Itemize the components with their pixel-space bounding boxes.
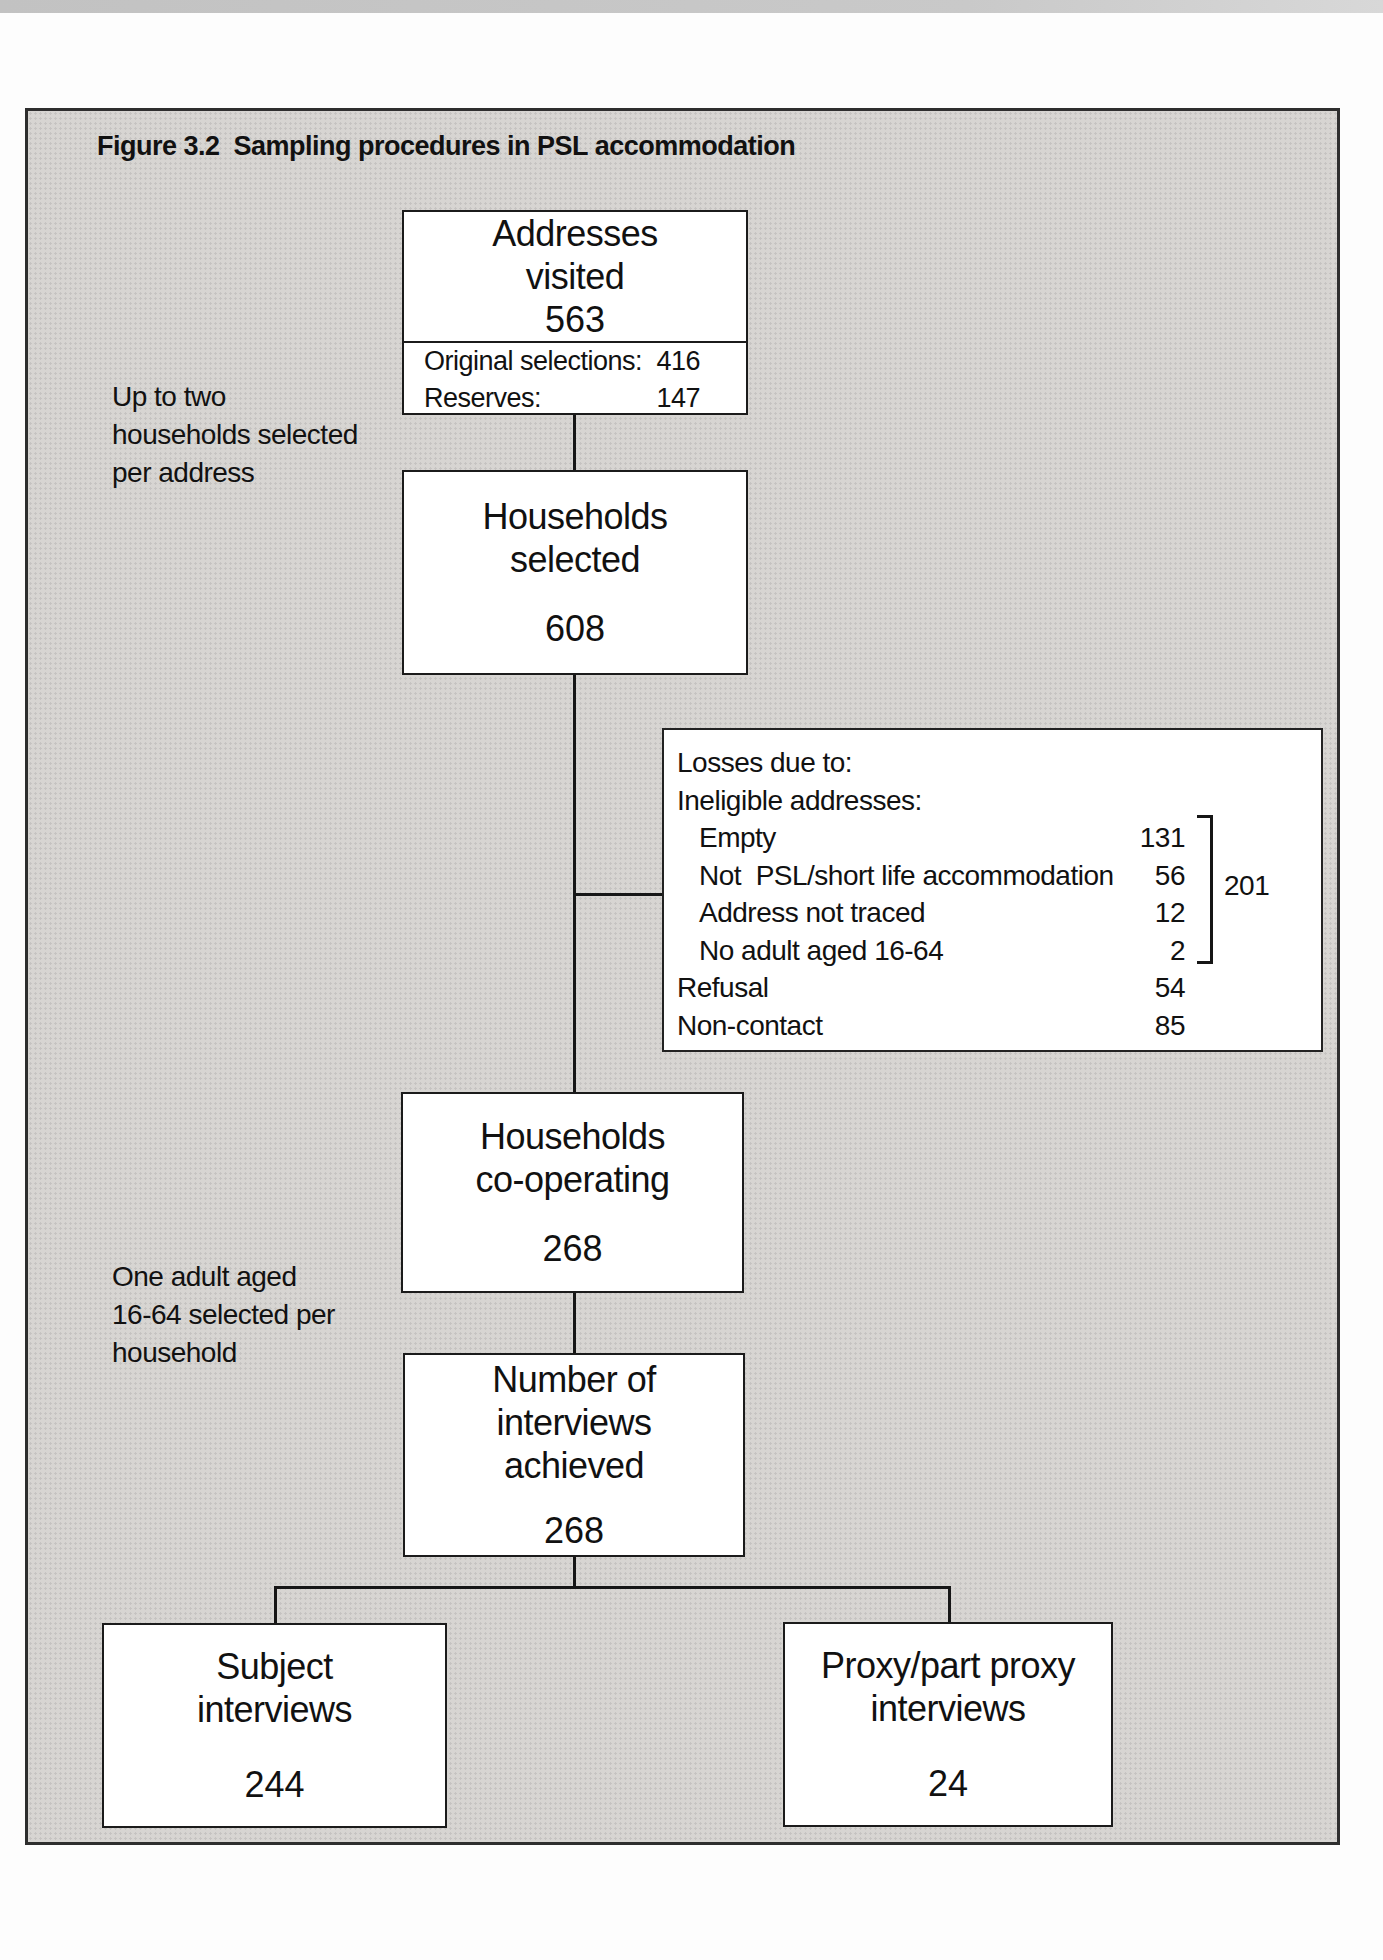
box-value: 268: [542, 1227, 602, 1270]
box-interviews-achieved: Number of interviews achieved 268: [403, 1353, 745, 1557]
breakdown-row: Original selections: 416: [404, 343, 746, 380]
connector-v4: [573, 1555, 576, 1588]
box-households-cooperating-main: Households co-operating 268: [403, 1094, 742, 1291]
loss-value: 131: [1140, 819, 1185, 857]
box-title-line: interviews: [870, 1687, 1025, 1730]
loss-row: Not PSL/short life accommodation 56: [699, 857, 1185, 895]
box-title-line: Number of: [492, 1358, 656, 1401]
box-proxy-interviews-main: Proxy/part proxy interviews 24: [785, 1624, 1111, 1825]
connector-v3: [573, 1291, 576, 1355]
box-households-selected: Households selected 608: [402, 470, 748, 675]
losses-bracket-total: 201: [1224, 870, 1269, 902]
loss-value: 54: [1155, 969, 1185, 1007]
loss-heading: Losses due to:: [677, 744, 852, 782]
connector-drop-proxy: [948, 1586, 951, 1624]
note-up-to-two: Up to two households selected per addres…: [112, 378, 358, 492]
loss-value: 12: [1155, 894, 1185, 932]
box-addresses-visited: Addresses visited 563 Original selection…: [402, 210, 748, 415]
loss-label: No adult aged 16-64: [699, 932, 943, 970]
loss-label: Address not traced: [699, 894, 925, 932]
loss-row: Ineligible addresses:: [677, 782, 1185, 820]
loss-row: Empty 131: [699, 819, 1185, 857]
breakdown-value: 147: [656, 380, 700, 417]
note-line: Up to two: [112, 378, 358, 416]
box-addresses-visited-main: Addresses visited 563: [404, 212, 746, 341]
loss-value: 56: [1155, 857, 1185, 895]
loss-row: Refusal 54: [677, 969, 1185, 1007]
box-interviews-achieved-main: Number of interviews achieved 268: [405, 1355, 743, 1555]
box-value: 24: [928, 1762, 968, 1805]
box-subject-interviews: Subject interviews 244: [102, 1623, 447, 1828]
box-subject-interviews-main: Subject interviews 244: [104, 1625, 445, 1826]
losses-box: Losses due to: Ineligible addresses: Emp…: [662, 728, 1323, 1052]
loss-label: Non-contact: [677, 1007, 822, 1045]
box-title-line: Proxy/part proxy: [821, 1644, 1075, 1687]
box-households-cooperating: Households co-operating 268: [401, 1092, 744, 1293]
connector-v2: [573, 673, 576, 1094]
breakdown-label: Original selections:: [424, 343, 642, 380]
box-title-line: co-operating: [475, 1158, 669, 1201]
loss-row: Non-contact 85: [677, 1007, 1185, 1045]
connector-split-horizontal: [274, 1586, 951, 1589]
loss-label: Not PSL/short life accommodation: [699, 857, 1114, 895]
box-title-line: achieved: [504, 1444, 644, 1487]
losses-group-bracket: [1197, 815, 1213, 964]
box-addresses-visited-breakdown: Original selections: 416 Reserves: 147: [404, 341, 746, 417]
loss-subheading: Ineligible addresses:: [677, 782, 922, 820]
box-households-selected-main: Households selected 608: [404, 472, 746, 673]
note-line: 16-64 selected per: [112, 1296, 335, 1334]
connector-v1: [573, 415, 576, 470]
box-proxy-interviews: Proxy/part proxy interviews 24: [783, 1622, 1113, 1827]
box-value: 563: [545, 298, 605, 341]
loss-value: 85: [1155, 1007, 1185, 1045]
box-title-line: Households: [482, 495, 667, 538]
connector-losses: [574, 893, 664, 896]
note-one-adult: One adult aged 16-64 selected per househ…: [112, 1258, 335, 1372]
page: Figure 3.2 Sampling procedures in PSL ac…: [0, 0, 1383, 1960]
loss-row: No adult aged 16-64 2: [699, 932, 1185, 970]
box-title-line: Subject: [216, 1645, 333, 1688]
figure-title: Figure 3.2 Sampling procedures in PSL ac…: [97, 131, 795, 162]
box-title-line: visited: [526, 255, 625, 298]
breakdown-label: Reserves:: [424, 380, 541, 417]
breakdown-row: Reserves: 147: [404, 380, 746, 417]
note-line: per address: [112, 454, 358, 492]
note-line: household: [112, 1334, 335, 1372]
loss-label: Empty: [699, 819, 776, 857]
connector-drop-subject: [274, 1586, 277, 1625]
box-value: 268: [544, 1509, 604, 1552]
box-title-line: Households: [480, 1115, 665, 1158]
scan-top-band: [0, 0, 1383, 13]
loss-row: Address not traced 12: [699, 894, 1185, 932]
box-title-line: Addresses: [492, 212, 658, 255]
note-line: households selected: [112, 416, 358, 454]
box-value: 244: [244, 1763, 304, 1806]
box-title-line: interviews: [496, 1401, 651, 1444]
loss-value: 2: [1170, 932, 1185, 970]
note-line: One adult aged: [112, 1258, 335, 1296]
loss-row: Losses due to:: [677, 744, 1185, 782]
box-title-line: interviews: [197, 1688, 352, 1731]
box-title-line: selected: [510, 538, 640, 581]
box-value: 608: [545, 607, 605, 650]
loss-label: Refusal: [677, 969, 768, 1007]
breakdown-value: 416: [656, 343, 700, 380]
